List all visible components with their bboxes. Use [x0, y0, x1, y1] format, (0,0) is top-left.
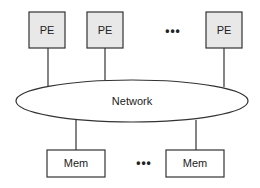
mem-box-1: Mem [47, 150, 105, 177]
architecture-diagram: PE PE ••• PE Network Mem ••• Mem [0, 0, 260, 188]
pe-label: PE [217, 24, 232, 36]
pe-box-2: PE [87, 12, 123, 48]
pe-box-1: PE [29, 12, 65, 48]
mem-box-2: Mem [166, 150, 224, 177]
pe-label: PE [98, 24, 113, 36]
pe-box-3: PE [206, 12, 242, 48]
pe-label: PE [40, 24, 55, 36]
mem-label: Mem [183, 157, 207, 169]
network-label: Network [112, 95, 153, 107]
pe-ellipsis: ••• [165, 24, 181, 38]
network-ellipse: Network [16, 80, 248, 122]
mem-ellipsis: ••• [136, 156, 152, 170]
mem-label: Mem [64, 157, 88, 169]
